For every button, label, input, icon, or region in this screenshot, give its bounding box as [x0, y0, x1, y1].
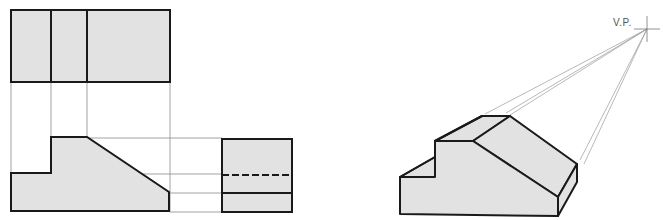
perspective-view [400, 116, 577, 216]
drawing-canvas [0, 0, 663, 220]
vanishing-point-marker [634, 16, 660, 42]
top-view [11, 10, 170, 82]
side-view [222, 139, 292, 212]
